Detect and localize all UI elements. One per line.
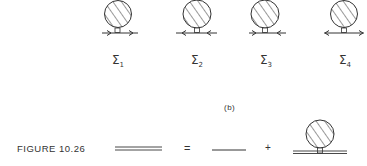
- dressed-propagator-double-line: [115, 147, 162, 150]
- sigma-4-label: Σ4: [339, 53, 351, 69]
- self-energy-diagram-2: [176, 0, 217, 36]
- sigma-2-label: Σ2: [191, 53, 203, 69]
- part-b-label: (b): [224, 103, 235, 112]
- plus-sign: +: [265, 142, 271, 153]
- sigma-3-label: Σ3: [260, 53, 272, 69]
- self-energy-diagram-1: [102, 1, 138, 36]
- figure-caption: FIGURE 10.26: [17, 143, 85, 154]
- tadpole-diagram: [293, 120, 347, 154]
- sigma-1-label: Σ1: [112, 53, 124, 69]
- equals-sign: =: [184, 142, 191, 154]
- self-energy-diagram-4: [324, 1, 364, 36]
- self-energy-diagram-3: [249, 0, 286, 36]
